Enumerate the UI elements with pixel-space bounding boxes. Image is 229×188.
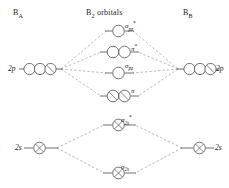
- orbital-circle-sigma-pz: [113, 67, 125, 79]
- mo-energy-diagram: BA B2 orbitals BB: [0, 0, 229, 188]
- orbital-circle-left-2p-1: [24, 63, 35, 74]
- corr-left-2p-to-sigma-pz-star: [61, 31, 106, 69]
- orbital-circle-left-2p-2: [34, 63, 45, 74]
- left-2p-label: 2p: [8, 64, 16, 73]
- label-pi-antibonding: π*: [131, 44, 137, 53]
- orbital-boxes-left-2p: [24, 63, 56, 74]
- label-sigma-2s-bonding: σ2s: [121, 164, 129, 173]
- corr-left-2p-to-pi: [61, 69, 101, 96]
- label-pi-bonding-sym: π: [131, 87, 135, 95]
- label-pi-bonding: π: [131, 88, 135, 95]
- orbital-circle-sigma-pz-star: [113, 25, 125, 37]
- corr-left-2s-to-sigma-2s-star: [57, 125, 104, 148]
- label-sigma-pz-bonding: σpz: [125, 63, 133, 72]
- orbital-circle-right-2p-2: [194, 63, 205, 74]
- right-2s-label: 2s: [215, 143, 222, 152]
- label-sigma-pz-bonding-sub: pz: [128, 65, 133, 71]
- diagram-graphics: [0, 0, 229, 188]
- label-pi-antibonding-star: *: [135, 43, 138, 49]
- label-sigma-pz-antibonding-star: *: [133, 20, 136, 26]
- orbital-box-left-2s: [34, 142, 46, 154]
- corr-right-2p-to-sigma-pz: [133, 69, 178, 73]
- corr-right-2s-to-sigma-2s: [135, 148, 182, 173]
- orbital-circle-pi-star-1: [107, 46, 119, 58]
- label-sigma-2s-antibonding-sub: 2s: [124, 120, 129, 126]
- orbital-circle-right-2p-1: [184, 63, 195, 74]
- left-2s-label: 2s: [15, 143, 22, 152]
- corr-left-2p-to-pi-star: [61, 52, 101, 69]
- orbital-boxes-right-2p: [184, 63, 216, 74]
- corr-right-2p-to-pi-star: [138, 52, 178, 69]
- corr-right-2p-to-sigma-pz-star: [133, 31, 178, 69]
- orbital-circle-pi-star-2: [119, 46, 131, 58]
- label-sigma-2s-antibonding-star: *: [129, 114, 132, 120]
- orbital-box-right-2s: [194, 142, 206, 154]
- orbital-boxes-pi-antibonding: [107, 46, 130, 58]
- corr-left-2s-to-sigma-2s: [57, 148, 104, 173]
- orbital-box-sigma-pz-bonding: [113, 67, 125, 79]
- label-sigma-pz-antibonding: σpz*: [125, 21, 136, 32]
- corr-right-2p-to-pi: [138, 69, 178, 96]
- label-sigma-pz-antibonding-sub: pz: [128, 26, 133, 32]
- label-sigma-2s-bonding-sub: 2s: [124, 166, 129, 172]
- right-2p-label: 2p: [216, 64, 224, 73]
- corr-left-2p-to-sigma-pz: [61, 69, 106, 73]
- label-sigma-2s-antibonding: σ2s*: [121, 115, 132, 126]
- orbital-boxes-pi-bonding: [107, 90, 130, 102]
- orbital-box-sigma-pz-antibonding: [113, 25, 125, 37]
- corr-right-2s-to-sigma-2s-star: [135, 125, 182, 148]
